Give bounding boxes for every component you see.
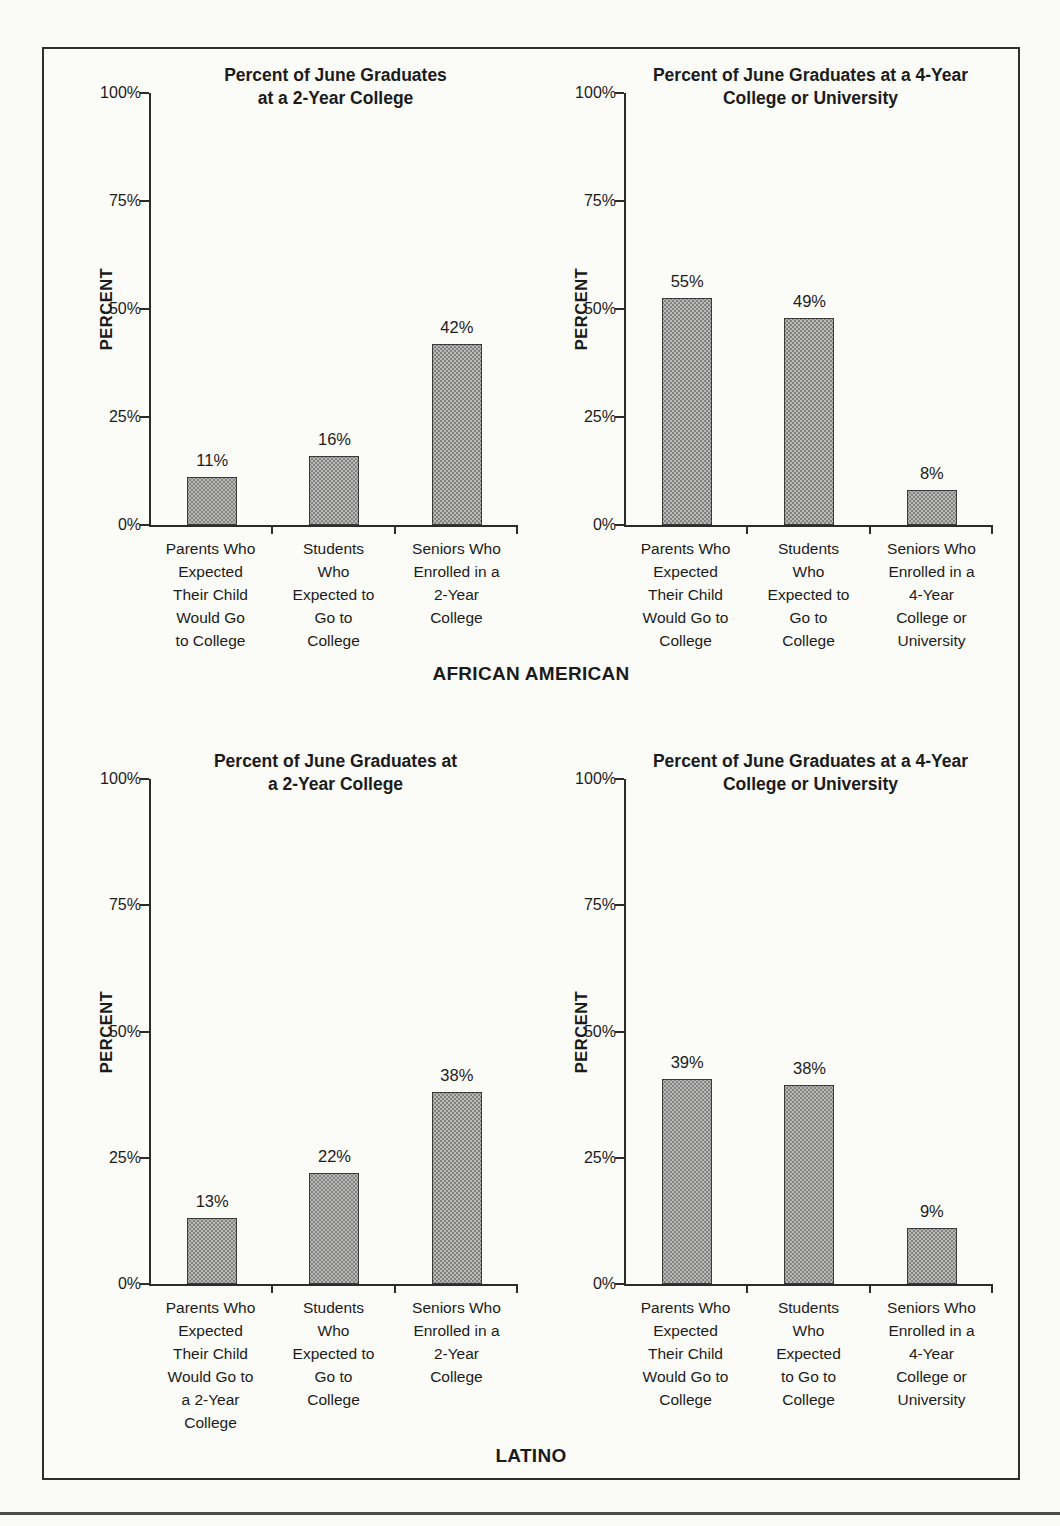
category-label-line: Who bbox=[272, 560, 395, 583]
y-axis-label-wrap: PERCENT bbox=[69, 93, 95, 525]
y-tick-mark bbox=[615, 1283, 624, 1285]
bar-slot: 13% bbox=[151, 779, 273, 1284]
category-labels: Parents WhoExpectedTheir ChildWould Go t… bbox=[149, 1296, 518, 1434]
x-tick-mark bbox=[991, 1284, 993, 1293]
y-tick-label: 50% bbox=[584, 1022, 616, 1042]
plot-area: Percent of June Graduates at a 4-YearCol… bbox=[624, 779, 993, 1286]
chart-latino-4year: PERCENT0%25%50%75%100%Percent of June Gr… bbox=[544, 735, 993, 1434]
category-label-line: College bbox=[747, 1388, 870, 1411]
bar-slot: 42% bbox=[396, 93, 518, 525]
group-label-latino: LATINO bbox=[69, 1445, 993, 1467]
category-label-line: to Go to bbox=[747, 1365, 870, 1388]
y-tick-mark bbox=[615, 524, 624, 526]
bar bbox=[907, 1228, 957, 1284]
category-label-line: College bbox=[395, 1365, 518, 1388]
bar-value-label: 39% bbox=[626, 1053, 748, 1071]
bar-value-label: 11% bbox=[151, 451, 273, 469]
category-label-line: Parents Who bbox=[149, 537, 272, 560]
category-label-line: College or bbox=[870, 1365, 993, 1388]
category-label-line: Seniors Who bbox=[395, 537, 518, 560]
x-tick-mark bbox=[394, 1284, 396, 1293]
bar-slot: 22% bbox=[273, 779, 395, 1284]
bar bbox=[432, 344, 482, 525]
category-label-line: Their Child bbox=[624, 1342, 747, 1365]
category-label-line: Their Child bbox=[624, 583, 747, 606]
y-tick-label: 100% bbox=[575, 769, 616, 789]
x-tick-mark bbox=[746, 525, 748, 534]
bar bbox=[309, 1173, 359, 1284]
category-label-line: Enrolled in a bbox=[870, 1319, 993, 1342]
chart-title-line: Percent of June Graduates at bbox=[143, 750, 528, 773]
category-label-line: Students bbox=[747, 1296, 870, 1319]
y-tick-label: 75% bbox=[109, 895, 141, 915]
bar-slot: 8% bbox=[871, 93, 993, 525]
chart-title-line: Percent of June Graduates at a 4-Year bbox=[618, 64, 1003, 87]
y-axis-label-wrap: PERCENT bbox=[544, 779, 570, 1284]
x-tick-mark bbox=[271, 525, 273, 534]
group-latino: PERCENT0%25%50%75%100%Percent of June Gr… bbox=[69, 735, 993, 1467]
y-tick-label: 0% bbox=[118, 1274, 141, 1294]
category-label-line: Parents Who bbox=[624, 1296, 747, 1319]
bar bbox=[662, 298, 712, 525]
y-tick-mark bbox=[140, 200, 149, 202]
y-tick-label: 25% bbox=[584, 1148, 616, 1168]
x-tick-mark bbox=[271, 1284, 273, 1293]
category-label: StudentsWhoExpected toGo toCollege bbox=[747, 537, 870, 652]
category-label-line: Enrolled in a bbox=[395, 560, 518, 583]
category-label-line: Would Go to bbox=[149, 1365, 272, 1388]
y-tick-label: 50% bbox=[584, 299, 616, 319]
y-axis-label-wrap: PERCENT bbox=[544, 93, 570, 525]
plot-area: Percent of June Graduatesat a 2-Year Col… bbox=[149, 93, 518, 527]
bar-value-label: 38% bbox=[748, 1059, 870, 1077]
bar-value-label: 42% bbox=[396, 318, 518, 336]
category-labels: Parents WhoExpectedTheir ChildWould Go t… bbox=[624, 537, 993, 652]
category-label-line: Their Child bbox=[149, 583, 272, 606]
category-label: Parents WhoExpectedTheir ChildWould Goto… bbox=[149, 537, 272, 652]
bar bbox=[432, 1092, 482, 1284]
y-tick-mark bbox=[615, 904, 624, 906]
x-tick-mark bbox=[746, 1284, 748, 1293]
x-tick-mark bbox=[394, 525, 396, 534]
category-label: Seniors WhoEnrolled in a2-YearCollege bbox=[395, 537, 518, 652]
bar-value-label: 16% bbox=[273, 430, 395, 448]
category-label-line: College bbox=[272, 1388, 395, 1411]
bar bbox=[187, 1218, 237, 1284]
y-tick-label: 100% bbox=[575, 83, 616, 103]
category-label-line: Go to bbox=[272, 1365, 395, 1388]
category-label-line: Expected to bbox=[747, 583, 870, 606]
category-label-line: 4-Year bbox=[870, 583, 993, 606]
category-label-line: Expected to bbox=[272, 1342, 395, 1365]
x-tick-mark bbox=[869, 525, 871, 534]
category-label-line: Expected bbox=[149, 560, 272, 583]
bar-slot: 38% bbox=[748, 779, 870, 1284]
bar-slot: 11% bbox=[151, 93, 273, 525]
y-tick-mark bbox=[615, 200, 624, 202]
y-tick-mark bbox=[140, 416, 149, 418]
category-label-line: Parents Who bbox=[624, 537, 747, 560]
y-tick-label: 25% bbox=[109, 407, 141, 427]
plot-area: Percent of June Graduates ata 2-Year Col… bbox=[149, 779, 518, 1286]
y-tick-label: 75% bbox=[584, 191, 616, 211]
bar-slot: 38% bbox=[396, 779, 518, 1284]
bar-slot: 39% bbox=[626, 779, 748, 1284]
bar-value-label: 22% bbox=[273, 1147, 395, 1165]
category-label-line: 4-Year bbox=[870, 1342, 993, 1365]
y-tick-mark bbox=[140, 308, 149, 310]
x-tick-mark bbox=[516, 1284, 518, 1293]
bar-value-label: 55% bbox=[626, 272, 748, 290]
y-tick-label: 100% bbox=[100, 769, 141, 789]
y-tick-mark bbox=[615, 1157, 624, 1159]
bar bbox=[784, 318, 834, 525]
bar-slot: 49% bbox=[748, 93, 870, 525]
category-label-line: to College bbox=[149, 629, 272, 652]
category-label-line: Go to bbox=[747, 606, 870, 629]
bar bbox=[187, 477, 237, 525]
y-tick-mark bbox=[140, 524, 149, 526]
category-label: Parents WhoExpectedTheir ChildWould Go t… bbox=[149, 1296, 272, 1434]
y-tick-label: 25% bbox=[584, 407, 616, 427]
bar bbox=[907, 490, 957, 525]
y-tick-mark bbox=[615, 308, 624, 310]
bar-value-label: 9% bbox=[871, 1202, 993, 1220]
y-tick-mark bbox=[140, 904, 149, 906]
category-label-line: University bbox=[870, 1388, 993, 1411]
